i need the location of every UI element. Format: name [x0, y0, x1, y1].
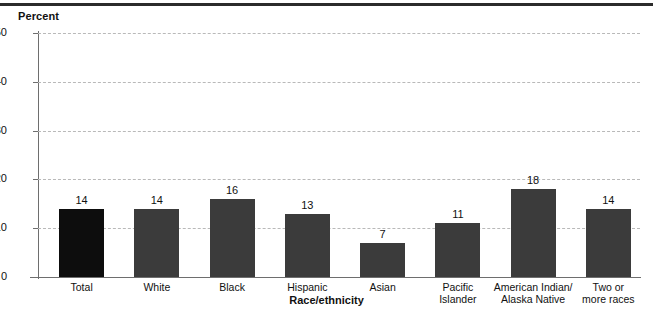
category-label: White [113, 282, 200, 294]
category-label-line: American Indian/ [490, 282, 577, 294]
category-label-line: Black [189, 282, 276, 294]
bar-value-label: 14 [59, 194, 104, 206]
bar-value-label: 14 [586, 194, 631, 206]
y-axis-tick-label: 10 [0, 221, 7, 233]
bar [134, 209, 179, 277]
y-axis-tick [33, 82, 38, 83]
y-axis-tick-label: 30 [0, 124, 7, 136]
category-label-line: Total [38, 282, 125, 294]
bar [360, 243, 405, 277]
bar-value-label: 18 [511, 174, 556, 186]
y-axis-tick [33, 33, 38, 34]
bar [285, 214, 330, 277]
category-label-line: White [113, 282, 200, 294]
chart-screenshot: Percent 141416137111814 01020304050 Tota… [0, 0, 653, 313]
y-axis-tick-label: 50 [0, 26, 7, 38]
category-label-line: Hispanic [264, 282, 351, 294]
bar [511, 189, 556, 277]
gridline [38, 82, 640, 83]
bar [435, 223, 480, 277]
bar [210, 199, 255, 277]
y-axis-tick-label: 0 [0, 270, 7, 282]
gridline [38, 131, 640, 132]
bar [59, 209, 104, 277]
x-axis-line [30, 277, 641, 278]
bar-value-label: 13 [285, 199, 330, 211]
category-label: Asian [339, 282, 426, 294]
y-axis-caption: Percent [18, 10, 59, 22]
category-label-line: Asian [339, 282, 426, 294]
bar-value-label: 7 [360, 228, 405, 240]
plot-area: 141416137111814 [38, 33, 640, 277]
category-label-line: Pacific [414, 282, 501, 294]
category-label: Hispanic [264, 282, 351, 294]
gridline [38, 33, 640, 34]
y-axis-tick [33, 179, 38, 180]
category-label: Black [189, 282, 276, 294]
top-divider-rule [0, 3, 653, 6]
y-axis-tick-label: 40 [0, 75, 7, 87]
bar-value-label: 14 [134, 194, 179, 206]
y-axis-tick [33, 277, 38, 278]
bar-value-label: 11 [435, 208, 480, 220]
y-axis-tick [33, 131, 38, 132]
bar [586, 209, 631, 277]
x-axis-caption: Race/ethnicity [0, 294, 653, 306]
category-label-line: Two or [565, 282, 652, 294]
category-label: Total [38, 282, 125, 294]
y-axis-tick-label: 20 [0, 172, 7, 184]
bar-value-label: 16 [210, 184, 255, 196]
y-axis-tick [33, 228, 38, 229]
